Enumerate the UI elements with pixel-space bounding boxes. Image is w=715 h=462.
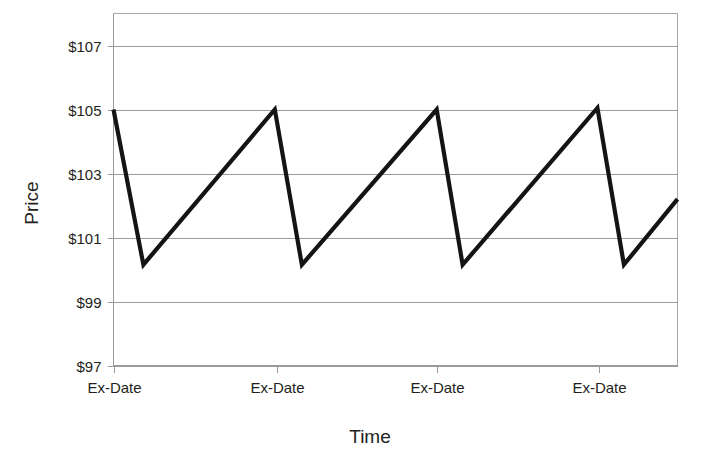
x-tick-label: Ex-Date [87,379,141,396]
chart-canvas: $97$99$101$103$105$107 Ex-DateEx-DateEx-… [0,0,715,462]
x-axis-title: Time [349,426,391,447]
y-tick-label: $99 [76,294,101,311]
y-tick-label: $103 [68,166,101,183]
x-tick-label: Ex-Date [410,379,464,396]
y-tick-label: $107 [68,38,101,55]
y-tick-label: $97 [76,358,101,375]
y-tick-label: $101 [68,230,101,247]
x-tick-label: Ex-Date [572,379,626,396]
plot-area [114,14,678,366]
price-vs-time-chart: $97$99$101$103$105$107 Ex-DateEx-DateEx-… [0,0,715,462]
x-axis-ticks: Ex-DateEx-DateEx-DateEx-Date [87,366,626,396]
y-axis-ticks: $97$99$101$103$105$107 [68,38,113,375]
x-tick-label: Ex-Date [250,379,304,396]
y-axis-title: Price [21,181,42,224]
y-tick-label: $105 [68,102,101,119]
